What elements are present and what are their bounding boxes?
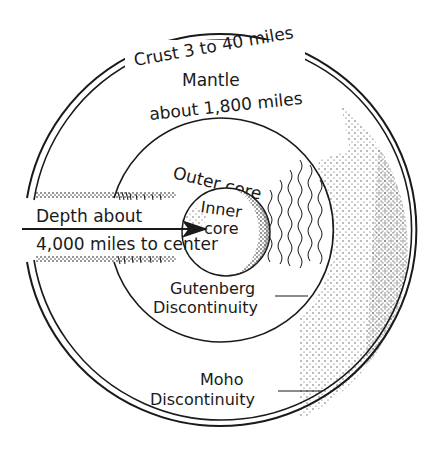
gutenberg-label-line2: Discontinuity bbox=[153, 298, 258, 317]
moho-label-line2: Discontinuity bbox=[150, 390, 255, 409]
mantle-label: Mantle bbox=[182, 70, 240, 90]
depth-label-line2: 4,000 miles to center bbox=[36, 234, 218, 254]
depth-label-line1: Depth about bbox=[36, 206, 143, 226]
moho-label-line1: Moho bbox=[200, 370, 244, 389]
gutenberg-label-line1: Gutenberg bbox=[170, 279, 255, 298]
earth-interior-diagram: Crust 3 to 40 miles Mantle about 1,800 m… bbox=[0, 0, 431, 459]
